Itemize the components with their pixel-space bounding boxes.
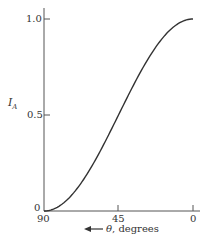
x-tick-label-90: 90 [37, 214, 50, 224]
chart-plot [0, 0, 210, 242]
y-tick-label-0: 0 [34, 203, 40, 213]
arrow-left-icon [84, 226, 91, 232]
y-axis-label: IA [8, 96, 17, 111]
y-tick-label-1.0: 1.0 [26, 14, 42, 24]
x-tick-label-0: 0 [190, 214, 196, 224]
data-curve [44, 19, 193, 211]
y-tick-label-0.5: 0.5 [27, 110, 43, 120]
x-axis-label: θ, degrees [106, 224, 159, 234]
